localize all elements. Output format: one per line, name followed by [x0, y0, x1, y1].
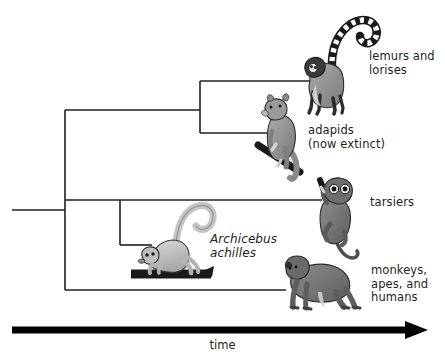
ring-tailed-lemur-icon: [305, 20, 377, 114]
ape-icon: [286, 256, 360, 309]
tip-label-archicebus: Archicebus achilles: [210, 232, 277, 260]
adapid-primate-icon: [258, 94, 300, 179]
tarsier-icon: [320, 178, 358, 258]
time-axis-arrow: [12, 321, 428, 339]
time-arrow-head: [405, 321, 428, 339]
tip-label-lemurs: lemurs and lorises: [369, 50, 435, 77]
tip-label-monkeys: monkeys, apes, and humans: [371, 264, 428, 305]
archicebus-icon: [131, 205, 214, 277]
time-axis-label: time: [0, 338, 445, 352]
tip-label-tarsiers: tarsiers: [370, 196, 414, 210]
tip-label-adapids: adapids (now extinct): [308, 124, 385, 151]
phylogenetic-tree-figure: lemurs and lorises adapids (now extinct)…: [0, 0, 445, 359]
